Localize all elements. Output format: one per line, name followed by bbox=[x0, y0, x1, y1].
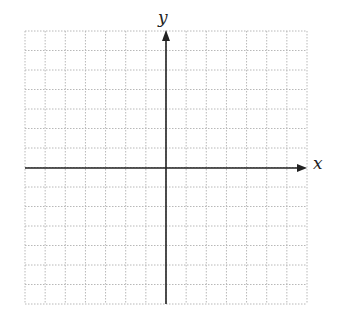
coordinate-plane bbox=[0, 0, 345, 317]
y-axis-label: y bbox=[158, 9, 168, 26]
x-axis-arrow-icon bbox=[297, 164, 307, 172]
x-axis-label: x bbox=[313, 155, 323, 172]
y-axis-arrow-icon bbox=[162, 30, 170, 41]
